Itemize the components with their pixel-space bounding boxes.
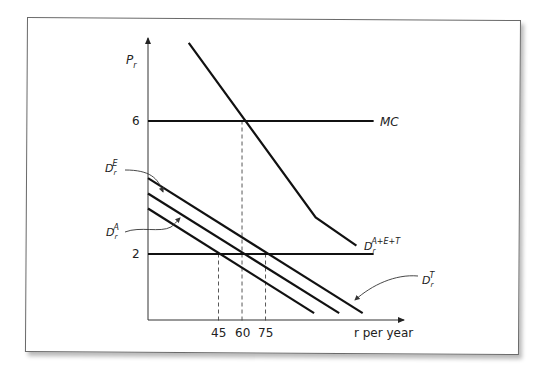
chart: Pr r per year 6 2 45 60 75 MC DrA+E+T Dr… bbox=[0, 0, 544, 370]
d-e-pointer-arrow bbox=[125, 170, 163, 192]
d-t-pointer-arrow bbox=[355, 276, 418, 300]
d-e-label: DrE bbox=[105, 159, 118, 177]
d-t-label: DrT bbox=[422, 271, 435, 289]
series-d-r-a-e-t bbox=[189, 43, 357, 246]
tick-label-45: 45 bbox=[211, 326, 226, 340]
series-d-r-a bbox=[148, 208, 314, 313]
d-a-label: DrA bbox=[106, 223, 119, 241]
tick-label-6: 6 bbox=[132, 114, 140, 128]
mc-label: MC bbox=[380, 115, 399, 129]
y-axis-label: Pr bbox=[126, 53, 137, 70]
d-a-pointer-arrow bbox=[125, 218, 180, 232]
tick-label-75: 75 bbox=[258, 326, 273, 340]
tick-label-60: 60 bbox=[235, 326, 250, 340]
d-aet-label: DrA+E+T bbox=[364, 237, 401, 255]
series-d-r-t bbox=[148, 178, 363, 313]
tick-label-2: 2 bbox=[132, 247, 140, 261]
x-axis-label: r per year bbox=[354, 326, 413, 340]
